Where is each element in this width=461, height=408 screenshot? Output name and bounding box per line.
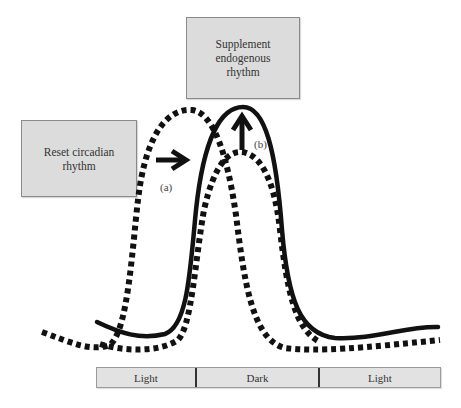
arrow-up-icon <box>233 116 251 150</box>
period-segment-light: Light <box>97 368 195 387</box>
light-dark-period-bar: Light Dark Light <box>96 367 441 388</box>
dotted-low-curve <box>100 152 320 350</box>
period-segment-dark: Dark <box>195 368 318 387</box>
rhythm-curves <box>0 0 461 408</box>
label-a: (a) <box>160 181 172 193</box>
period-segment-light: Light <box>318 368 440 387</box>
arrow-right-icon <box>156 151 186 169</box>
label-b: (b) <box>254 138 267 150</box>
solid-endogenous-curve <box>97 107 438 338</box>
